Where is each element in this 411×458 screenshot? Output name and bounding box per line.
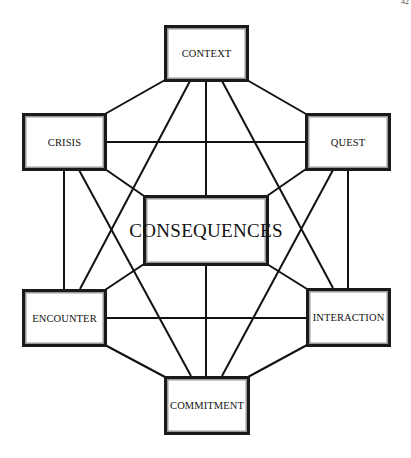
node-quest-label: QUEST — [331, 137, 365, 148]
node-commitment: COMMITMENT — [164, 376, 250, 435]
node-context: CONTEXT — [164, 25, 249, 82]
node-context-label: CONTEXT — [182, 48, 232, 59]
node-consequences: CONSEQUENCES — [143, 195, 269, 266]
node-crisis-label: CRISIS — [48, 137, 81, 148]
edge-crisis-consequences — [105, 169, 144, 196]
edge-quest-consequences — [267, 169, 306, 196]
edge-interaction-commitment — [248, 345, 307, 377]
node-interaction-label: INTERACTION — [313, 312, 385, 323]
node-encounter-label: ENCOUNTER — [32, 313, 96, 324]
edge-context-quest — [247, 80, 306, 114]
node-quest: QUEST — [305, 113, 391, 171]
node-encounter: ENCOUNTER — [22, 289, 107, 347]
edge-context-crisis — [105, 80, 165, 114]
node-crisis: CRISIS — [22, 113, 107, 171]
node-interaction: INTERACTION — [306, 288, 391, 347]
edge-interaction-consequences — [267, 264, 307, 289]
edge-encounter-commitment — [105, 345, 165, 377]
node-commitment-label: COMMITMENT — [170, 400, 244, 411]
node-consequences-label: CONSEQUENCES — [129, 220, 283, 242]
